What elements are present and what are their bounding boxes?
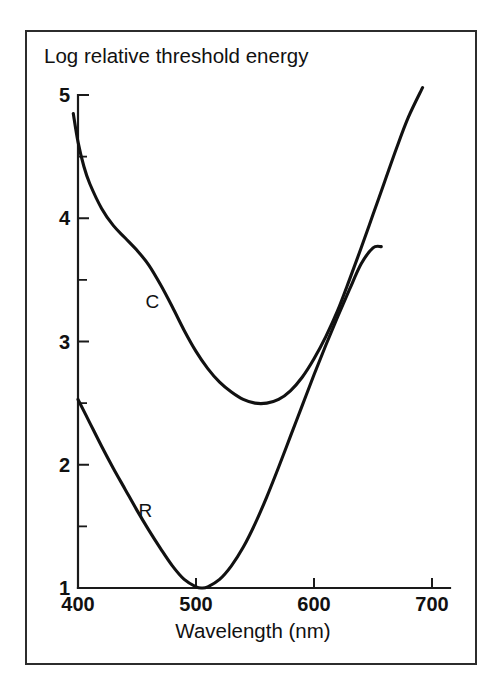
series-curve-C xyxy=(73,88,422,404)
y-tick-label: 4 xyxy=(59,207,71,229)
x-tick-label: 500 xyxy=(179,593,212,615)
y-tick-label: 5 xyxy=(59,84,70,106)
chart-canvas: 12345 400500600700 CR Log relative thres… xyxy=(0,0,503,692)
x-axis-title: Wavelength (nm) xyxy=(175,619,330,642)
y-axis-ticks: 12345 xyxy=(59,84,89,599)
series-label-C: C xyxy=(145,291,159,312)
x-tick-label: 600 xyxy=(297,593,330,615)
figure-root: 12345 400500600700 CR Log relative thres… xyxy=(0,0,503,692)
data-series-group xyxy=(73,88,422,588)
series-inline-labels: CR xyxy=(138,291,159,520)
chart-title: Log relative threshold energy xyxy=(44,44,309,67)
x-axis-ticks: 400500600700 xyxy=(61,578,448,615)
axes xyxy=(78,95,450,588)
y-tick-label: 3 xyxy=(59,331,70,353)
x-tick-label: 400 xyxy=(61,593,94,615)
x-tick-label: 700 xyxy=(415,593,448,615)
series-curve-R xyxy=(78,246,381,588)
series-label-R: R xyxy=(138,500,152,521)
y-tick-label: 2 xyxy=(59,454,70,476)
